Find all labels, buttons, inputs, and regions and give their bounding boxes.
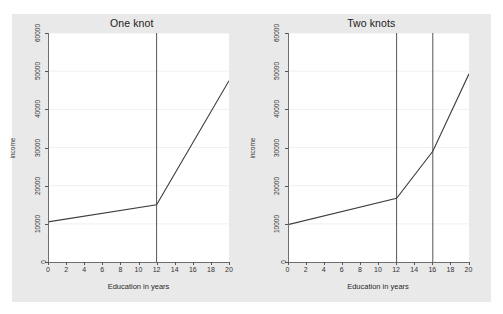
x-tick-mark (139, 262, 140, 265)
x-tick-label: 0 (46, 266, 50, 273)
panel-two-knots: Two knots 010000200003000040000500006000… (252, 14, 492, 302)
y-tick-label: 20000 (28, 182, 46, 189)
y-tick-label: 10000 (28, 220, 46, 227)
x-tick-mark (66, 262, 67, 265)
panel-container: One knot 0100002000030000400005000060000… (12, 14, 491, 302)
figure-root: One knot 0100002000030000400005000060000… (0, 0, 503, 314)
y-tick-text: 40000 (273, 100, 280, 118)
x-tick-mark (211, 262, 212, 265)
y-tick-text: 30000 (273, 138, 280, 156)
series-line (288, 74, 469, 225)
x-tick-label: 16 (428, 266, 436, 273)
x-tick-mark (432, 262, 433, 265)
y-tick-label: 40000 (28, 106, 46, 113)
x-tick-mark (306, 262, 307, 265)
y-tick-text: 10000 (33, 215, 40, 233)
y-tick-text: 20000 (33, 177, 40, 195)
x-tick-label: 2 (304, 266, 308, 273)
x-tick-mark (469, 262, 470, 265)
x-tick-mark (378, 262, 379, 265)
x-tick-mark (120, 262, 121, 265)
x-tick-mark (360, 262, 361, 265)
x-tick-mark (175, 262, 176, 265)
y-tick-label: 50000 (267, 68, 285, 75)
x-tick-label: 16 (189, 266, 197, 273)
y-tick-mark (45, 109, 48, 110)
x-tick-label: 0 (286, 266, 290, 273)
x-tick-label: 10 (135, 266, 143, 273)
x-tick-mark (157, 262, 158, 265)
x-tick-mark (450, 262, 451, 265)
x-tick-label: 4 (322, 266, 326, 273)
series-line (48, 81, 229, 222)
y-axis-label-left: income (9, 137, 16, 158)
y-tick-label: 40000 (267, 106, 285, 113)
x-tick-label: 20 (465, 266, 473, 273)
plot-area-two-knots (288, 33, 469, 262)
x-tick-mark (342, 262, 343, 265)
y-tick-label: 20000 (267, 182, 285, 189)
x-tick-label: 20 (225, 266, 233, 273)
x-tick-mark (396, 262, 397, 265)
x-tick-mark (84, 262, 85, 265)
x-tick-label: 18 (446, 266, 454, 273)
y-tick-mark (285, 71, 288, 72)
y-tick-label: 60000 (28, 30, 46, 37)
x-tick-mark (48, 262, 49, 265)
y-tick-mark (285, 224, 288, 225)
y-axis-label-wrap-right: income (260, 33, 270, 262)
panel-title-two-knots: Two knots (252, 17, 492, 29)
y-tick-text: 50000 (273, 62, 280, 80)
panel-one-knot: One knot 0100002000030000400005000060000… (12, 14, 252, 302)
x-axis-label-left: Education in years (48, 282, 229, 291)
x-tick-label: 8 (358, 266, 362, 273)
x-tick-mark (324, 262, 325, 265)
y-tick-text: 50000 (33, 62, 40, 80)
y-tick-mark (285, 148, 288, 149)
x-tick-mark (229, 262, 230, 265)
y-tick-text: 60000 (33, 24, 40, 42)
y-tick-text: 40000 (33, 100, 40, 118)
y-tick-label: 30000 (28, 144, 46, 151)
x-tick-mark (288, 262, 289, 265)
y-tick-text: 20000 (273, 177, 280, 195)
y-tick-mark (285, 186, 288, 187)
y-axis-label-right: income (248, 137, 255, 158)
y-tick-mark (45, 33, 48, 34)
y-axis-line-left (48, 33, 49, 262)
y-tick-mark (45, 224, 48, 225)
y-tick-text: 10000 (273, 215, 280, 233)
plot-area-one-knot (48, 33, 229, 262)
x-tick-label: 8 (118, 266, 122, 273)
y-tick-text: 60000 (273, 24, 280, 42)
x-tick-label: 4 (82, 266, 86, 273)
x-tick-label: 12 (153, 266, 161, 273)
y-tick-label: 30000 (267, 144, 285, 151)
plot-svg-one-knot (48, 33, 229, 262)
y-tick-mark (45, 186, 48, 187)
y-tick-label: 60000 (267, 30, 285, 37)
x-axis-label-right: Education in years (288, 282, 469, 291)
plot-svg-two-knots (288, 33, 469, 262)
x-tick-label: 12 (392, 266, 400, 273)
y-axis-label-wrap-left: income (20, 33, 30, 262)
x-tick-mark (414, 262, 415, 265)
y-tick-mark (45, 148, 48, 149)
x-tick-label: 2 (64, 266, 68, 273)
x-tick-label: 10 (374, 266, 382, 273)
y-tick-label: 10000 (267, 220, 285, 227)
x-tick-label: 18 (207, 266, 215, 273)
x-tick-label: 6 (100, 266, 104, 273)
y-tick-mark (285, 109, 288, 110)
y-axis-line-right (288, 33, 289, 262)
x-tick-label: 6 (340, 266, 344, 273)
x-tick-mark (193, 262, 194, 265)
x-tick-label: 14 (171, 266, 179, 273)
y-tick-text: 30000 (33, 138, 40, 156)
y-tick-mark (285, 33, 288, 34)
x-tick-mark (102, 262, 103, 265)
y-tick-mark (45, 71, 48, 72)
panel-title-one-knot: One knot (12, 17, 252, 29)
x-tick-label: 14 (410, 266, 418, 273)
y-tick-label: 50000 (28, 68, 46, 75)
